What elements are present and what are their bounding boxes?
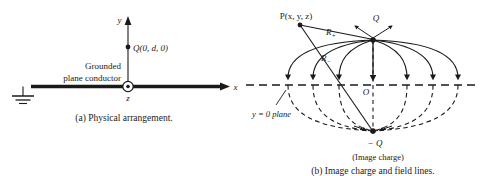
r-plus-label: R+ bbox=[325, 27, 336, 39]
z-axis-label: z bbox=[125, 93, 130, 103]
x-axis-arrowhead bbox=[220, 83, 230, 91]
image-charge-note: (Image charge) bbox=[352, 152, 404, 162]
plane-leader-line bbox=[276, 90, 286, 105]
charge-arrow-up-right bbox=[373, 26, 392, 38]
field-line-right-3 bbox=[373, 40, 458, 78]
conductor-label-line1: Grounded bbox=[85, 61, 121, 71]
charge-negative-dot bbox=[370, 128, 376, 134]
charge-negative-label: − Q bbox=[368, 138, 383, 148]
r-minus-label: R− bbox=[320, 53, 331, 65]
panel-a-caption: (a) Physical arrangement. bbox=[75, 113, 172, 124]
charge-q-label: Q(0, d, 0) bbox=[133, 43, 168, 53]
image-field-line-right-2 bbox=[373, 85, 433, 131]
charge-q-dot bbox=[126, 45, 131, 50]
field-point-label: P(x, y, z) bbox=[280, 11, 312, 21]
y-axis-label: y bbox=[117, 15, 122, 25]
image-field-line-right-3 bbox=[373, 85, 458, 131]
field-point-dot bbox=[298, 23, 303, 28]
plane-label: y = 0 plane bbox=[251, 109, 291, 119]
field-line-right-2 bbox=[373, 40, 433, 78]
image-field-line-left-3 bbox=[288, 85, 373, 131]
y-axis-arrowhead bbox=[125, 16, 132, 25]
panel-b-image-charge: P(x, y, z) R+ R− Q − Q O y = 0 plane (Im… bbox=[242, 0, 484, 176]
charge-positive-label: Q bbox=[373, 13, 380, 23]
x-axis-label: x bbox=[233, 82, 238, 92]
panel-a-physical-arrangement: y Q(0, d, 0) x z Grounded plane conducto… bbox=[0, 0, 242, 176]
panel-b-caption: (b) Image charge and field lines. bbox=[311, 166, 434, 176]
charge-positive-dot bbox=[370, 37, 376, 43]
z-axis-center-dot bbox=[126, 85, 130, 89]
origin-label: O bbox=[363, 87, 370, 97]
figure-root: y Q(0, d, 0) x z Grounded plane conducto… bbox=[0, 0, 484, 176]
conductor-label-line2: plane conductor bbox=[63, 73, 121, 83]
image-field-line-right-1 bbox=[373, 85, 407, 131]
